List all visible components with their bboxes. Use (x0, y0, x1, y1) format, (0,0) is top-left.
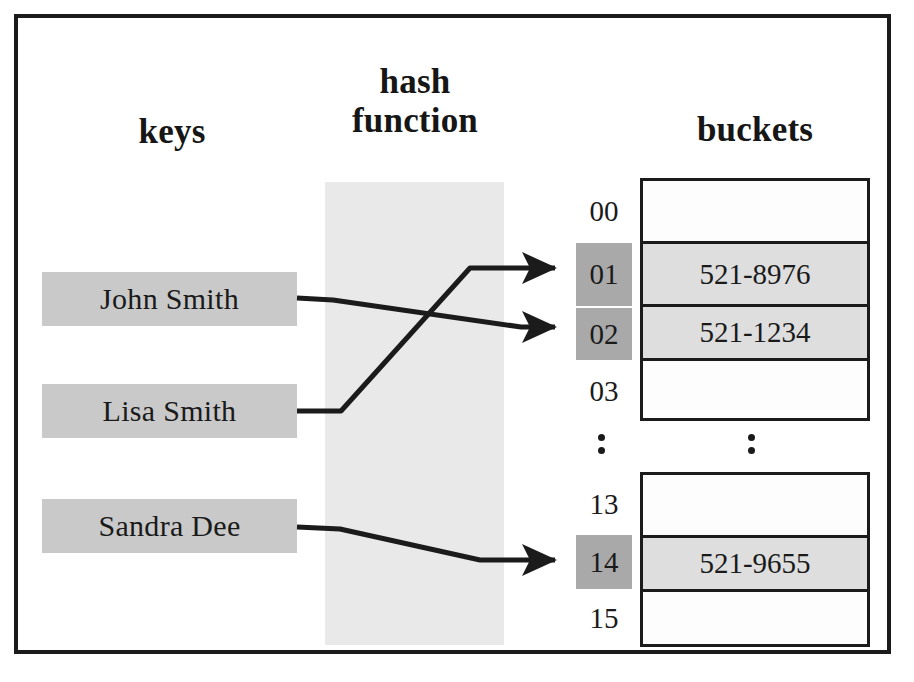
key-box-john-smith[interactable]: John Smith (42, 272, 297, 326)
bucket-table-top: 521-8976 521-1234 (640, 178, 870, 421)
ellipsis-index-column (598, 434, 605, 454)
key-label: Lisa Smith (103, 394, 237, 428)
index-cell-03[interactable]: 03 (576, 362, 632, 420)
bucket-row[interactable] (643, 181, 867, 241)
key-label: John Smith (100, 282, 239, 316)
index-cell-00[interactable]: 00 (576, 180, 632, 242)
index-cell-02[interactable]: 02 (576, 308, 632, 360)
ellipsis-dot (748, 434, 755, 441)
diagram-canvas: keys hash function buckets John Smith Li… (0, 0, 914, 682)
key-box-sandra-dee[interactable]: Sandra Dee (42, 499, 297, 553)
heading-hash-function: hash function (300, 62, 530, 140)
bucket-row[interactable] (643, 358, 867, 415)
bucket-row[interactable]: 521-1234 (643, 304, 867, 358)
ellipsis-bucket-column (748, 434, 755, 454)
key-label: Sandra Dee (98, 509, 240, 543)
ellipsis-dot (748, 447, 755, 454)
bucket-row[interactable]: 521-9655 (643, 535, 867, 589)
index-cell-01[interactable]: 01 (576, 243, 632, 306)
index-cell-13[interactable]: 13 (576, 474, 632, 534)
index-cell-15[interactable]: 15 (576, 590, 632, 646)
heading-keys: keys (62, 112, 282, 151)
key-box-lisa-smith[interactable]: Lisa Smith (42, 384, 297, 438)
ellipsis-dot (598, 447, 605, 454)
ellipsis-dot (598, 434, 605, 441)
heading-buckets: buckets (640, 110, 870, 149)
bucket-row[interactable] (643, 589, 867, 641)
bucket-table-bottom: 521-9655 (640, 472, 870, 647)
bucket-row[interactable]: 521-8976 (643, 241, 867, 304)
hash-function-band (325, 182, 504, 645)
index-cell-14[interactable]: 14 (576, 535, 632, 589)
bucket-row[interactable] (643, 475, 867, 535)
